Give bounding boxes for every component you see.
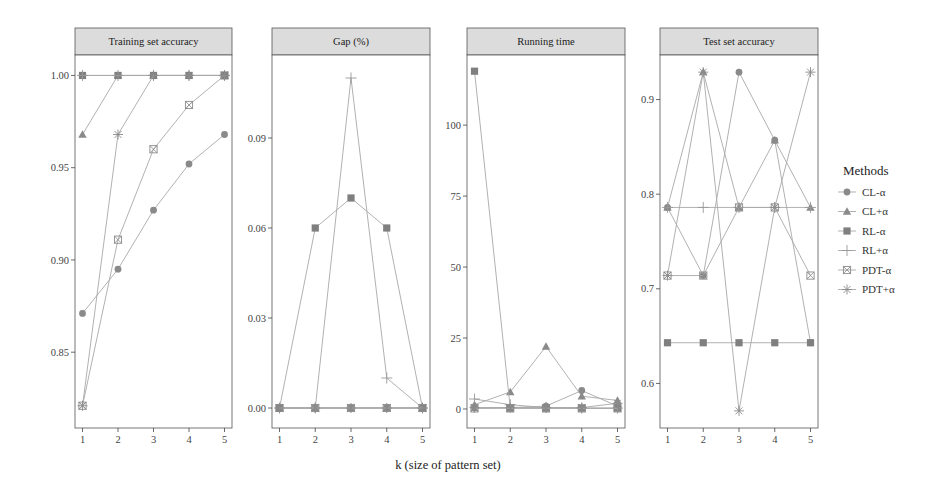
data-point-asterisk-icon: [184, 70, 194, 80]
x-tick-label: 4: [772, 434, 778, 445]
facet-training-set-accuracy: Training set accuracy0.850.900.951.00123…: [51, 28, 232, 445]
plot-area: [467, 55, 625, 428]
y-tick-label: 100: [445, 120, 461, 131]
y-tick-label: 0.85: [51, 347, 69, 358]
x-tick-label: 5: [615, 434, 620, 445]
x-tick-label: 5: [420, 434, 425, 445]
data-point-asterisk-icon: [806, 67, 816, 77]
legend-label: PDT-α: [862, 264, 891, 276]
data-point-square-icon: [771, 339, 778, 346]
data-point-circle-icon: [115, 266, 122, 273]
data-point-asterisk-icon: [770, 202, 780, 212]
legend: Methods CL-αCL+αRL-αRL+αPDT-αPDT+α: [838, 163, 895, 295]
x-tick-label: 1: [80, 434, 85, 445]
legend-item: CL+α: [838, 205, 888, 217]
y-tick-label: 0.6: [641, 378, 654, 389]
data-point-asterisk-icon: [310, 403, 320, 413]
facet-running-time: Running time025507510012345: [445, 28, 625, 445]
data-point-square-icon: [700, 339, 707, 346]
data-point-asterisk-icon: [275, 403, 285, 413]
x-axis-title: k (size of pattern set): [395, 458, 501, 472]
x-tick-label: 2: [313, 434, 318, 445]
data-point-square-icon: [664, 339, 671, 346]
faceted-line-chart: Training set accuracy0.850.900.951.00123…: [0, 0, 945, 489]
data-point-square-icon: [383, 224, 390, 231]
facet-gap: Gap (%)0.000.030.060.0912345: [248, 28, 430, 445]
x-tick-label: 2: [115, 434, 120, 445]
y-tick-label: 0: [456, 404, 461, 415]
y-tick-label: 0.9: [641, 94, 654, 105]
facet-test-set-accuracy: Test set accuracy0.60.70.80.912345: [641, 28, 818, 445]
data-point-circle-icon: [150, 207, 157, 214]
y-tick-label: 0.90: [51, 255, 69, 266]
y-tick-label: 0.09: [248, 133, 266, 144]
y-axis: 0.000.030.060.09: [248, 133, 272, 414]
legend-label: CL+α: [862, 205, 888, 217]
y-tick-label: 0.7: [641, 283, 654, 294]
data-point-square-icon: [312, 224, 319, 231]
data-point-asterisk-icon: [382, 403, 392, 413]
facet-title: Test set accuracy: [703, 36, 775, 47]
data-point-circle-icon: [221, 131, 228, 138]
data-point-asterisk-icon: [220, 70, 230, 80]
x-tick-label: 2: [508, 434, 513, 445]
legend-asterisk-icon: [842, 285, 852, 295]
data-point-square-icon: [347, 194, 354, 201]
data-point-asterisk-icon: [418, 403, 428, 413]
x-axis: 12345: [472, 428, 620, 445]
legend-label: PDT+α: [862, 283, 895, 295]
data-point-asterisk-icon: [470, 403, 480, 413]
y-tick-label: 50: [451, 262, 462, 273]
x-tick-label: 2: [701, 434, 706, 445]
x-tick-label: 4: [384, 434, 390, 445]
legend-triangle-icon: [843, 207, 851, 215]
x-tick-label: 3: [151, 434, 156, 445]
plot-area: [660, 55, 818, 428]
data-point-asterisk-icon: [698, 67, 708, 77]
legend-square-icon: [843, 227, 850, 234]
data-point-square-icon: [807, 339, 814, 346]
data-point-asterisk-icon: [541, 403, 551, 413]
y-axis: 0.60.70.80.9: [641, 94, 660, 389]
legend-label: RL-α: [862, 225, 886, 237]
plot-area: [75, 55, 232, 428]
x-tick-label: 1: [472, 434, 477, 445]
x-tick-label: 5: [808, 434, 813, 445]
data-point-square-icon: [735, 339, 742, 346]
legend-item: RL-α: [838, 225, 886, 237]
data-point-asterisk-icon: [113, 129, 123, 139]
y-tick-label: 0.03: [248, 313, 266, 324]
data-point-asterisk-icon: [734, 406, 744, 416]
legend-label: RL+α: [862, 244, 888, 256]
y-tick-label: 0.8: [641, 189, 654, 200]
x-tick-label: 4: [186, 434, 192, 445]
y-tick-label: 1.00: [51, 70, 69, 81]
legend-title: Methods: [843, 163, 889, 178]
data-point-asterisk-icon: [663, 271, 673, 281]
x-tick-label: 1: [665, 434, 670, 445]
data-point-asterisk-icon: [78, 401, 88, 411]
data-point-asterisk-icon: [505, 403, 515, 413]
legend-item: RL+α: [838, 244, 888, 256]
legend-item: PDT+α: [838, 283, 895, 295]
x-axis: 12345: [80, 428, 227, 445]
data-point-circle-icon: [79, 310, 86, 317]
y-tick-label: 25: [451, 333, 462, 344]
plot-area: [272, 55, 430, 428]
x-tick-label: 3: [543, 434, 548, 445]
y-axis: 0.850.900.951.00: [51, 70, 75, 358]
data-point-asterisk-icon: [149, 70, 159, 80]
facet-title: Gap (%): [333, 36, 369, 48]
y-tick-label: 0.95: [51, 162, 69, 173]
legend-item: PDT-α: [838, 264, 891, 276]
legend-plus-icon: [842, 245, 853, 256]
data-point-asterisk-icon: [613, 398, 623, 408]
x-tick-label: 3: [348, 434, 353, 445]
y-tick-label: 75: [451, 191, 462, 202]
data-point-square-icon: [471, 68, 478, 75]
x-tick-label: 5: [222, 434, 227, 445]
x-tick-label: 3: [736, 434, 741, 445]
x-tick-label: 1: [277, 434, 282, 445]
y-axis: 0255075100: [445, 120, 467, 415]
y-tick-label: 0.00: [248, 403, 266, 414]
